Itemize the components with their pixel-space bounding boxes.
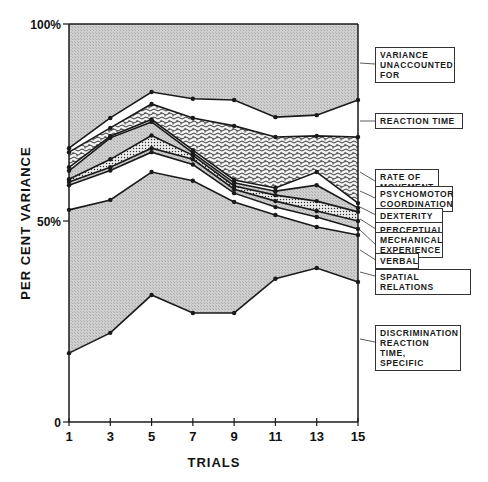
data-point <box>149 117 153 121</box>
data-point <box>315 266 319 270</box>
data-point <box>149 133 153 137</box>
x-tick-label: 13 <box>309 429 323 444</box>
data-point <box>273 205 277 209</box>
data-point <box>232 191 236 195</box>
legend-leaders <box>360 63 375 342</box>
data-point <box>108 198 112 202</box>
legend-item-label: VARIANCE <box>380 50 450 60</box>
data-point <box>191 116 195 120</box>
x-tick-label: 11 <box>269 429 283 444</box>
legend-item: VERBAL <box>375 253 419 269</box>
data-point <box>191 157 195 161</box>
data-point <box>191 162 195 166</box>
data-point <box>108 126 112 130</box>
legend-item-label: DISCRIMINATION <box>380 328 456 338</box>
data-point <box>315 183 319 187</box>
data-point <box>149 170 153 174</box>
data-point <box>315 209 319 213</box>
data-point <box>108 157 112 161</box>
data-point <box>273 135 277 139</box>
data-point <box>232 178 236 182</box>
data-point <box>232 124 236 128</box>
data-point <box>273 199 277 203</box>
x-tick-label: 3 <box>107 429 114 444</box>
data-point <box>232 200 236 204</box>
data-point <box>108 116 112 120</box>
legend-item-label: PSYCHOMOTOR <box>380 189 448 199</box>
legend-item-label: DEXTERITY <box>380 211 438 221</box>
legend-item: VARIANCEUNACCOUNTEDFOR <box>375 47 455 83</box>
legend-item-label: VERBAL <box>380 256 414 266</box>
data-point <box>315 113 319 117</box>
data-point <box>149 293 153 297</box>
data-point <box>273 277 277 281</box>
data-point <box>149 102 153 106</box>
data-point <box>149 146 153 150</box>
data-point <box>191 148 195 152</box>
data-point <box>315 225 319 229</box>
data-point <box>315 134 319 138</box>
data-point <box>191 311 195 315</box>
legend-item-label: SPECIFIC <box>380 358 456 368</box>
x-axis-label: TRIALS <box>188 455 241 470</box>
x-tick-label: 9 <box>231 429 238 444</box>
data-point <box>108 331 112 335</box>
data-point <box>191 179 195 183</box>
x-tick-label: 15 <box>351 429 365 444</box>
data-point <box>108 134 112 138</box>
legend-item-label: RATE OF <box>380 172 434 182</box>
data-point <box>191 97 195 101</box>
data-point <box>273 213 277 217</box>
y-tick-0: 0 <box>54 416 61 430</box>
data-point <box>149 150 153 154</box>
legend-item: SPATIAL RELATIONS <box>375 269 471 295</box>
data-point <box>273 186 277 190</box>
data-point <box>315 215 319 219</box>
legend-item-label: FOR <box>380 70 450 80</box>
y-tick-100: 100% <box>30 18 61 32</box>
legend-item: REACTION TIME <box>375 113 463 129</box>
data-point <box>232 311 236 315</box>
data-point <box>315 199 319 203</box>
data-point <box>232 98 236 102</box>
y-axis-label: PER CENT VARIANCE <box>18 146 33 299</box>
y-tick-50: 50% <box>37 215 61 229</box>
x-tick-label: 1 <box>65 429 72 444</box>
legend-item-label: REACTION TIME <box>380 116 458 126</box>
legend-item-label: UNACCOUNTED <box>380 60 450 70</box>
data-point <box>149 90 153 94</box>
legend-item-label: MECHANICAL <box>380 235 438 245</box>
legend-item-label: REACTION TIME, <box>380 338 456 358</box>
legend-item: DISCRIMINATIONREACTION TIME,SPECIFIC <box>375 325 461 371</box>
data-point <box>273 193 277 197</box>
data-point <box>108 165 112 169</box>
x-tick-label: 7 <box>189 429 196 444</box>
plot-area <box>69 24 358 422</box>
legend-item-label: SPATIAL RELATIONS <box>380 272 466 292</box>
data-point <box>315 170 319 174</box>
data-point <box>273 115 277 119</box>
x-tick-label: 5 <box>148 429 155 444</box>
